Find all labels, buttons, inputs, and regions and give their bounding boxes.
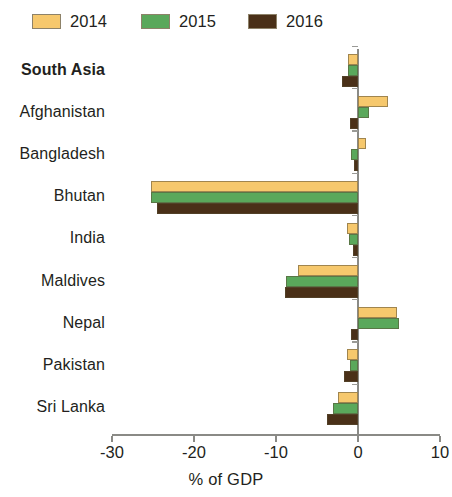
bar-afghanistan-2014: [358, 96, 388, 107]
legend-swatch-2016: [248, 14, 277, 29]
legend-swatch-2015: [141, 14, 170, 29]
bar-sri-lanka-2016: [327, 414, 358, 425]
bar-nepal-2015: [358, 318, 399, 329]
bar-bhutan-2016: [157, 203, 358, 214]
x-tick-mark: [111, 436, 112, 442]
category-tick-mark: [352, 384, 358, 385]
bar-bangladesh-2014: [358, 138, 366, 149]
bar-nepal-2014: [358, 307, 397, 318]
category-tick-mark: [352, 215, 358, 216]
x-tick-label: 0: [328, 443, 388, 462]
bar-india-2016: [353, 245, 358, 256]
bar-maldives-2016: [285, 287, 358, 298]
x-tick-label: -10: [246, 443, 306, 462]
bar-sri-lanka-2014: [338, 392, 358, 403]
bar-south-asia-2014: [348, 54, 358, 65]
legend-label-2014: 2014: [70, 13, 107, 30]
category-tick-mark: [352, 88, 358, 89]
bar-afghanistan-2016: [350, 118, 358, 129]
x-tick-mark: [275, 436, 276, 442]
legend-item-2016: 2016: [248, 11, 323, 31]
legend-item-2015: 2015: [141, 11, 216, 31]
bar-bangladesh-2016: [354, 160, 358, 171]
bar-chart-plot: South AsiaAfghanistanBangladeshBhutanInd…: [0, 42, 452, 497]
legend-label-2015: 2015: [179, 13, 216, 30]
bar-nepal-2016: [351, 329, 358, 340]
legend-label-2016: 2016: [286, 13, 323, 30]
bar-maldives-2014: [298, 265, 358, 276]
bar-maldives-2015: [286, 276, 358, 287]
bar-pakistan-2015: [350, 360, 358, 371]
bar-india-2014: [347, 223, 358, 234]
bar-south-asia-2016: [342, 76, 358, 87]
x-axis-title: % of GDP: [0, 470, 452, 489]
x-tick-label: -30: [82, 443, 142, 462]
bar-sri-lanka-2015: [333, 403, 358, 414]
bar-bhutan-2015: [151, 192, 358, 203]
category-tick-mark: [352, 341, 358, 342]
bar-afghanistan-2015: [358, 107, 369, 118]
x-tick-label: -20: [164, 443, 224, 462]
legend-item-2014: 2014: [32, 11, 107, 31]
x-tick-label: 10: [410, 443, 452, 462]
x-tick-mark: [357, 436, 358, 442]
x-tick-mark: [193, 436, 194, 442]
bar-bhutan-2014: [151, 181, 358, 192]
category-tick-mark: [352, 257, 358, 258]
bar-pakistan-2016: [344, 371, 358, 382]
bar-bangladesh-2015: [351, 149, 358, 160]
bars-area: [0, 42, 452, 435]
bar-india-2015: [349, 234, 358, 245]
bar-pakistan-2014: [347, 349, 358, 360]
chart-legend: 2014 2015 2016: [0, 0, 452, 42]
category-tick-mark: [352, 130, 358, 131]
category-tick-mark: [352, 299, 358, 300]
category-tick-mark: [352, 173, 358, 174]
legend-swatch-2014: [32, 14, 61, 29]
x-tick-mark: [439, 436, 440, 442]
bar-south-asia-2015: [348, 65, 358, 76]
category-tick-mark: [352, 46, 358, 47]
